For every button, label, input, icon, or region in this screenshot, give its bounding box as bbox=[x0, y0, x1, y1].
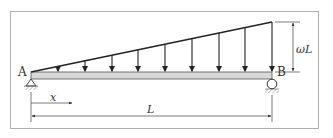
label-span: L bbox=[147, 104, 154, 115]
pin-support-a bbox=[24, 79, 38, 90]
beam bbox=[31, 72, 272, 79]
label-x: x bbox=[50, 92, 56, 103]
label-a: A bbox=[18, 66, 27, 78]
label-load-max: ωL bbox=[296, 44, 312, 55]
label-b: B bbox=[277, 66, 286, 78]
distributed-load bbox=[31, 22, 272, 72]
roller-support-b bbox=[265, 79, 279, 93]
